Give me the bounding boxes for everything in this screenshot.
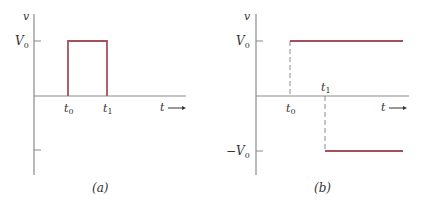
panel-b-t0-label: t0 (286, 102, 296, 116)
panel-b-neg-v0-label: −V0 (226, 144, 250, 160)
panel-b-v0-label: V0 (236, 34, 250, 50)
panel-a-caption: (a) (92, 181, 109, 195)
panel-a-t-axis-label: t (160, 101, 165, 114)
panel-a-t0-label: t0 (64, 102, 74, 116)
panel-a: v V0 t0 t1 t (a) (15, 10, 186, 195)
panel-a-pulse (68, 41, 107, 96)
panel-a-arrowhead-icon (182, 106, 186, 110)
panel-b-y-label: v (244, 10, 251, 23)
diagram-canvas: v V0 t0 t1 t (a) v V0 −V0 (0, 0, 424, 201)
panel-b-arrowhead-icon (403, 106, 407, 110)
panel-b-caption: (b) (314, 181, 331, 195)
panel-b-t1-label: t1 (321, 81, 331, 95)
panel-b: v V0 −V0 t0 t1 t (b) (226, 10, 409, 195)
panel-a-y-label: v (23, 10, 30, 23)
panel-b-t-axis-label: t (381, 101, 386, 114)
panel-a-t1-label: t1 (103, 102, 113, 116)
panel-a-v0-label: V0 (15, 34, 29, 50)
